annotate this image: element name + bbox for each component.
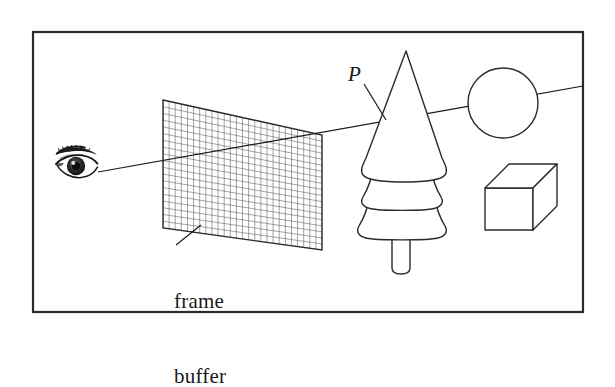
- point-p-label: P: [348, 62, 361, 87]
- box-front-face: [485, 188, 533, 230]
- sphere-object: [468, 68, 538, 138]
- frame-buffer-label-line2: buffer: [174, 364, 226, 387]
- frame-buffer-label: frame buffer: [174, 239, 226, 387]
- frame-buffer-label-line1: frame: [174, 289, 226, 314]
